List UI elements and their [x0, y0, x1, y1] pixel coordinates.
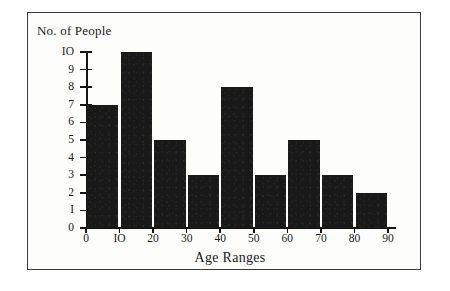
y-axis-tick-label: 6	[48, 116, 74, 128]
y-axis-tick	[80, 51, 92, 53]
y-axis-tick-label: 7	[48, 99, 74, 111]
x-axis-tick-label: IO	[106, 233, 134, 245]
y-axis-tick-label: 3	[48, 169, 74, 181]
y-axis-tick	[80, 69, 92, 71]
figure-root: No. of People 0I23456789IO 0IO2030405060…	[0, 0, 450, 291]
y-axis-title: No. of People	[37, 23, 111, 39]
histogram-bar	[322, 175, 353, 228]
x-axis-title: Age Ranges	[0, 250, 450, 266]
x-axis-tick-label: 70	[307, 233, 335, 245]
histogram-bar	[188, 175, 219, 228]
y-axis-tick	[80, 86, 92, 88]
y-axis-tick-label: 4	[48, 152, 74, 164]
x-axis-tick-label: 50	[240, 233, 268, 245]
x-axis-title-text: Age Ranges	[194, 250, 265, 265]
y-axis-tick-label: 8	[48, 81, 74, 93]
x-axis-tick-label: 90	[374, 233, 402, 245]
histogram-plot-area: No. of People 0I23456789IO 0IO2030405060…	[0, 0, 450, 291]
y-axis-tick-label: 9	[48, 64, 74, 76]
histogram-bar	[255, 175, 286, 228]
x-axis-tick-label: 80	[340, 233, 368, 245]
histogram-bar	[154, 140, 185, 228]
histogram-bar	[356, 193, 387, 228]
y-axis-tick-label: IO	[48, 46, 74, 58]
x-axis-tick-label: 0	[72, 233, 100, 245]
y-axis-tick-label: 0	[48, 222, 74, 234]
y-axis-tick-label: 2	[48, 187, 74, 199]
x-axis-tick-label: 60	[273, 233, 301, 245]
histogram-bar	[87, 105, 118, 228]
x-axis-tick-label: 40	[206, 233, 234, 245]
y-axis-tick-label: 5	[48, 134, 74, 146]
x-axis-tick-label: 30	[173, 233, 201, 245]
histogram-bar	[121, 52, 152, 228]
x-axis-tick-label: 20	[139, 233, 167, 245]
y-axis-tick-label: I	[48, 204, 74, 216]
histogram-bar	[288, 140, 319, 228]
histogram-bar	[221, 87, 252, 228]
